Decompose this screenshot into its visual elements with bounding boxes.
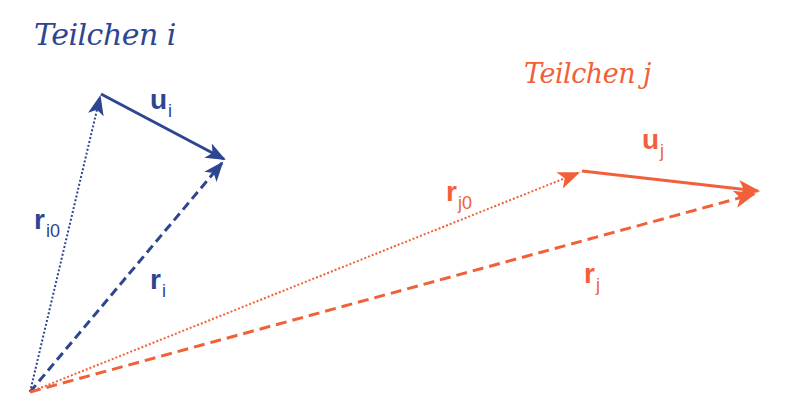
- label-r-j-base: r: [584, 258, 595, 289]
- label-r-j: rj: [584, 260, 600, 294]
- label-r-i0: ri0: [34, 206, 60, 240]
- label-r-j0: rj0: [446, 178, 472, 212]
- label-u-j-sub: j: [660, 141, 664, 161]
- label-r-i0-base: r: [34, 204, 45, 235]
- particle-i-title: Teilchen i: [34, 20, 176, 50]
- label-r-i-base: r: [150, 264, 161, 295]
- vector-r-j: [30, 194, 754, 392]
- vector-diagram: [0, 0, 788, 413]
- label-r-i0-sub: i0: [46, 221, 60, 241]
- particle-j-title: Teilchen j: [524, 60, 651, 87]
- vector-r-j0: [30, 173, 578, 392]
- label-u-i-base: u: [150, 84, 167, 115]
- label-u-i: ui: [150, 86, 172, 120]
- label-u-i-sub: i: [168, 101, 172, 121]
- label-r-j0-base: r: [446, 176, 457, 207]
- vector-u-j: [582, 171, 758, 191]
- vector-r-i: [30, 163, 222, 392]
- label-r-i-sub: i: [162, 281, 166, 301]
- label-u-j: uj: [642, 126, 664, 160]
- vector-r-i0: [30, 97, 100, 392]
- label-u-j-base: u: [642, 124, 659, 155]
- label-r-j-sub: j: [596, 275, 600, 295]
- label-r-i: ri: [150, 266, 166, 300]
- label-r-j0-sub: j0: [458, 193, 472, 213]
